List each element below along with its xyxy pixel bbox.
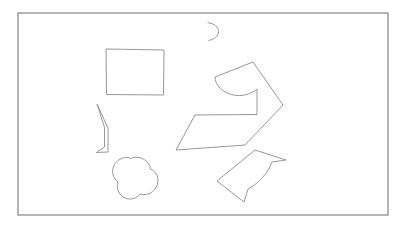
drawing-canvas <box>0 0 411 231</box>
arrow-polygon-shape <box>176 62 283 150</box>
line-art-figure <box>0 0 411 231</box>
outer-border-rectangle <box>18 13 388 215</box>
crescent-arc-shape <box>208 23 219 41</box>
quad-arc-shape <box>217 150 286 202</box>
hook-sliver-shape <box>97 104 109 153</box>
clover-cloud-shape <box>113 157 158 199</box>
rectangle-shape <box>106 49 164 95</box>
